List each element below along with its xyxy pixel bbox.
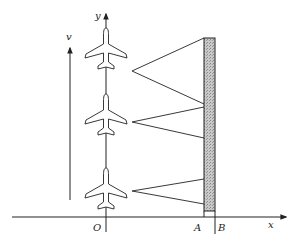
x-axis-label: x <box>268 219 274 230</box>
sound-cone-2 <box>132 107 204 138</box>
aircraft-sound-diagram: y v O A B x <box>0 0 296 239</box>
wall <box>204 38 215 211</box>
origin-label: O <box>93 222 101 233</box>
y-axis-label: y <box>94 10 101 21</box>
sound-cone-3 <box>132 179 204 204</box>
point-a-label: A <box>193 222 201 233</box>
aircraft-1 <box>85 28 127 69</box>
sound-cone-1 <box>132 38 204 104</box>
aircraft-3 <box>85 168 127 209</box>
velocity-label: v <box>66 31 72 42</box>
aircraft-2 <box>85 94 127 135</box>
point-b-label: B <box>217 222 225 233</box>
